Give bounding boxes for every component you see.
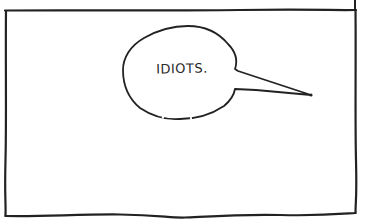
speech-bubble-text: IDIOTS.	[150, 59, 214, 78]
panel-left-border	[5, 11, 6, 216]
panel-top-border	[5, 10, 356, 11]
panel-right-border	[356, 10, 357, 213]
bubble-tail-tip	[309, 93, 312, 96]
panel-bottom-border	[6, 213, 356, 218]
comic-panel: IDIOTS.	[0, 0, 368, 223]
